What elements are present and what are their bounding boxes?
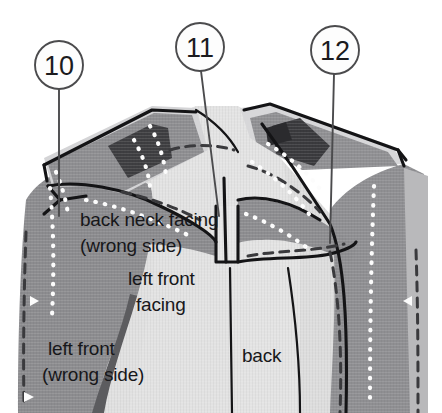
label-left-front-line-2: (wrong side) — [42, 364, 144, 385]
label-left-front-facing-line-1: left front — [128, 268, 196, 289]
callout-12-number: 12 — [320, 36, 350, 66]
callout-10[interactable]: 10 — [35, 41, 83, 89]
label-back-line-1: back — [242, 345, 282, 366]
callout-11-number: 11 — [186, 33, 214, 63]
label-back: back — [242, 345, 282, 366]
figure-root: back neck facing (wrong side) left front… — [0, 0, 442, 413]
label-left-front-line-1: left front — [48, 338, 116, 359]
callout-10-number: 10 — [44, 51, 74, 81]
label-left-front-facing-line-2: facing — [136, 294, 186, 315]
label-back-neck-facing-line-1: back neck facing — [80, 209, 218, 230]
callout-11[interactable]: 11 — [176, 23, 224, 71]
callout-12[interactable]: 12 — [311, 26, 359, 74]
label-back-neck-facing-line-2: (wrong side) — [80, 235, 182, 256]
garment-diagram-svg: back neck facing (wrong side) left front… — [0, 0, 442, 413]
